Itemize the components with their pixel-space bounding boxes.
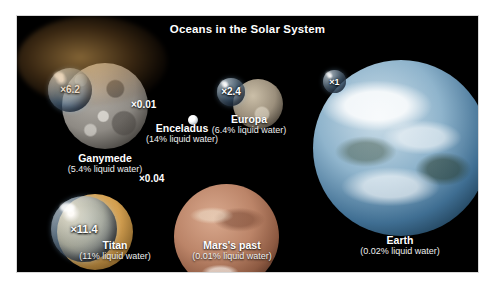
mars-name: Mars's past bbox=[172, 239, 292, 251]
space-panel: Oceans in the Solar System ×6.2 Ganymede… bbox=[17, 16, 478, 272]
earth-name: Earth bbox=[325, 234, 475, 246]
mars-multiplier-label: ×0.04 bbox=[139, 173, 164, 184]
titan-caption: Titan (11% liquid water) bbox=[55, 239, 175, 262]
europa-water-note: (6.4% liquid water) bbox=[189, 125, 309, 136]
europa-multiplier-label: ×2.4 bbox=[217, 86, 245, 97]
titan-atmosphere-glow bbox=[17, 16, 167, 106]
earth-water-note: (0.02% liquid water) bbox=[325, 246, 475, 257]
enceladus-multiplier-label: ×0.01 bbox=[131, 99, 156, 110]
titan-name: Titan bbox=[55, 239, 175, 251]
mars-water-note: (0.01% liquid water) bbox=[172, 251, 292, 262]
europa-caption: Europa (6.4% liquid water) bbox=[189, 113, 309, 136]
earth-water-sphere: ×1 bbox=[323, 70, 346, 93]
europa-water-sphere: ×2.4 bbox=[217, 78, 245, 106]
ganymede-name: Ganymede bbox=[35, 152, 175, 164]
europa-name: Europa bbox=[189, 113, 309, 125]
mars-caption: Mars's past (0.01% liquid water) bbox=[172, 239, 292, 262]
titan-water-note: (11% liquid water) bbox=[55, 251, 175, 262]
titan-multiplier-label: ×11.4 bbox=[51, 223, 117, 235]
earth-multiplier-label: ×1 bbox=[323, 76, 346, 86]
ganymede-caption: Ganymede (5.4% liquid water) bbox=[35, 152, 175, 175]
earth-caption: Earth (0.02% liquid water) bbox=[325, 234, 475, 257]
oceans-solar-system-figure: Oceans in the Solar System ×6.2 Ganymede… bbox=[0, 0, 501, 289]
